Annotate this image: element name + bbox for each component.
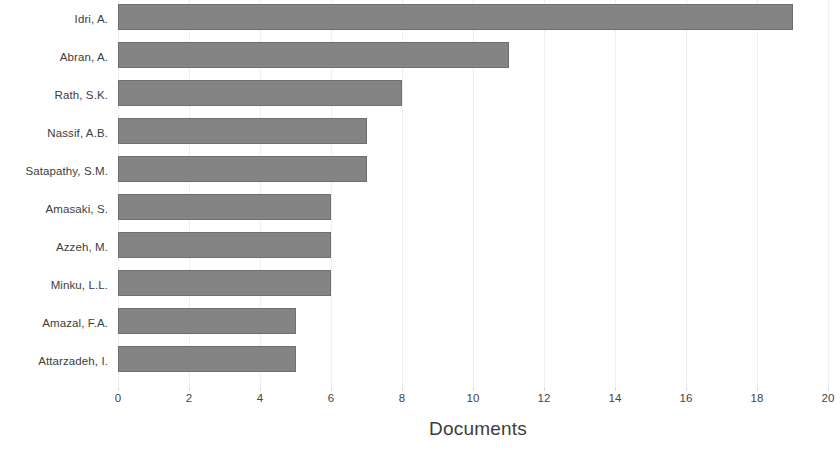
x-axis-tick-mark: [686, 388, 687, 391]
x-axis-tick-mark: [615, 388, 616, 391]
bar[interactable]: [118, 80, 402, 106]
bars-layer: [118, 0, 828, 388]
x-axis-tick-label: 4: [257, 392, 263, 404]
y-axis-tick-label: Azzeh, M.: [0, 228, 108, 266]
x-axis-tick-label: 18: [751, 392, 764, 404]
bar-row: [118, 0, 828, 38]
y-axis-tick-label: Nassif, A.B.: [0, 114, 108, 152]
x-axis-tick-mark: [473, 388, 474, 391]
bar[interactable]: [118, 4, 793, 30]
x-axis-tick-mark: [189, 388, 190, 391]
bar[interactable]: [118, 346, 296, 372]
bar-row: [118, 266, 828, 304]
x-axis-tick-label: 2: [186, 392, 192, 404]
bar[interactable]: [118, 156, 367, 182]
bar[interactable]: [118, 232, 331, 258]
bar-row: [118, 304, 828, 342]
x-axis: 02468101214161820: [118, 388, 828, 414]
y-axis-tick-label: Rath, S.K.: [0, 76, 108, 114]
bar[interactable]: [118, 270, 331, 296]
bar-row: [118, 38, 828, 76]
y-axis-tick-label: Satapathy, S.M.: [0, 152, 108, 190]
y-axis-tick-label: Attarzadeh, I.: [0, 342, 108, 380]
gridline-20: [828, 0, 829, 388]
bar-row: [118, 114, 828, 152]
x-axis-tick-label: 6: [328, 392, 334, 404]
bar-row: [118, 190, 828, 228]
plot-area: [118, 0, 828, 388]
x-axis-tick-label: 8: [399, 392, 405, 404]
x-axis-tick-mark: [331, 388, 332, 391]
bar[interactable]: [118, 194, 331, 220]
y-axis-tick-label: Amasaki, S.: [0, 190, 108, 228]
y-axis-category-labels: Idri, A.Abran, A.Rath, S.K.Nassif, A.B.S…: [0, 0, 108, 388]
bar[interactable]: [118, 118, 367, 144]
bar[interactable]: [118, 42, 509, 68]
bar[interactable]: [118, 308, 296, 334]
x-axis-tick-mark: [544, 388, 545, 391]
x-axis-tick-label: 12: [538, 392, 551, 404]
y-axis-tick-label: Minku, L.L.: [0, 266, 108, 304]
bar-row: [118, 228, 828, 266]
x-axis-tick-label: 20: [822, 392, 835, 404]
y-axis-tick-label: Idri, A.: [0, 0, 108, 38]
bar-row: [118, 76, 828, 114]
documents-by-author-bar-chart: Idri, A.Abran, A.Rath, S.K.Nassif, A.B.S…: [0, 0, 840, 450]
x-axis-tick-label: 0: [115, 392, 121, 404]
x-axis-tick-label: 16: [680, 392, 693, 404]
x-axis-tick-mark: [757, 388, 758, 391]
bar-row: [118, 342, 828, 380]
x-axis-tick-mark: [118, 388, 119, 391]
y-axis-tick-label: Amazal, F.A.: [0, 304, 108, 342]
x-axis-tick-mark: [260, 388, 261, 391]
y-axis-tick-label: Abran, A.: [0, 38, 108, 76]
x-axis-tick-mark: [402, 388, 403, 391]
x-axis-title: Documents: [0, 418, 840, 440]
x-axis-tick-label: 14: [609, 392, 622, 404]
bar-row: [118, 152, 828, 190]
x-axis-title-label: Documents: [429, 418, 527, 440]
x-axis-tick-mark: [828, 388, 829, 391]
x-axis-tick-label: 10: [467, 392, 480, 404]
